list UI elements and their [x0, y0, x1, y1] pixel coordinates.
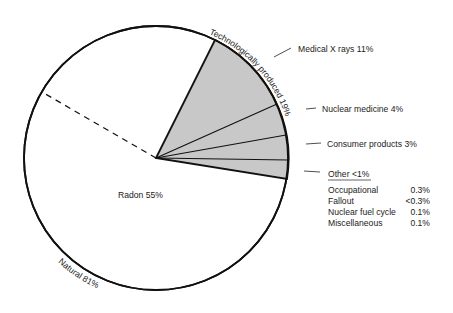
pie-chart: Technologically produced 19% Natural 81%… — [0, 0, 453, 313]
label-other: Other <1% — [328, 169, 370, 179]
leader-xray — [274, 48, 291, 57]
breakdown-name: Occupational — [328, 185, 378, 195]
other-breakdown-table: Occupational 0.3% Fallout <0.3% Nuclear … — [328, 185, 430, 228]
breakdown-value: <0.3% — [405, 196, 430, 206]
breakdown-value: 0.3% — [410, 185, 430, 195]
breakdown-value: 0.1% — [410, 207, 430, 217]
breakdown-name: Nuclear fuel cycle — [328, 207, 396, 217]
leader-nucmed — [306, 108, 316, 109]
leader-other — [304, 171, 320, 172]
label-nucmed: Nuclear medicine 4% — [322, 104, 404, 114]
label-xray: Medical X rays 11% — [298, 44, 374, 54]
label-radon: Radon 55% — [118, 190, 163, 200]
leader-consumer — [306, 143, 321, 144]
label-consumer: Consumer products 3% — [327, 139, 417, 149]
breakdown-name: Miscellaneous — [328, 218, 382, 228]
breakdown-name: Fallout — [328, 196, 354, 206]
breakdown-value: 0.1% — [410, 218, 430, 228]
